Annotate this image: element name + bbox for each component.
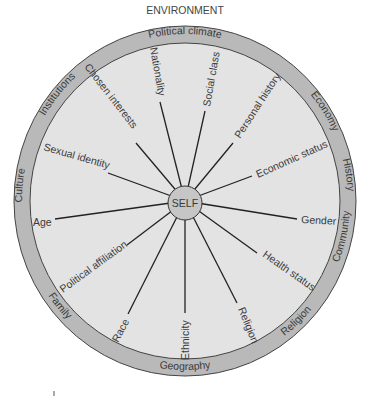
spoke-label-ethnicity: Ethnicity	[179, 320, 191, 360]
self-label: SELF	[172, 197, 198, 209]
diagram-title: ENVIRONMENT	[146, 4, 224, 16]
self-environment-diagram: ENVIRONMENT Political climate Economy In…	[0, 0, 370, 396]
spoke-label-gender: Gender	[301, 213, 337, 227]
spoke-label-age: Age	[33, 216, 52, 228]
